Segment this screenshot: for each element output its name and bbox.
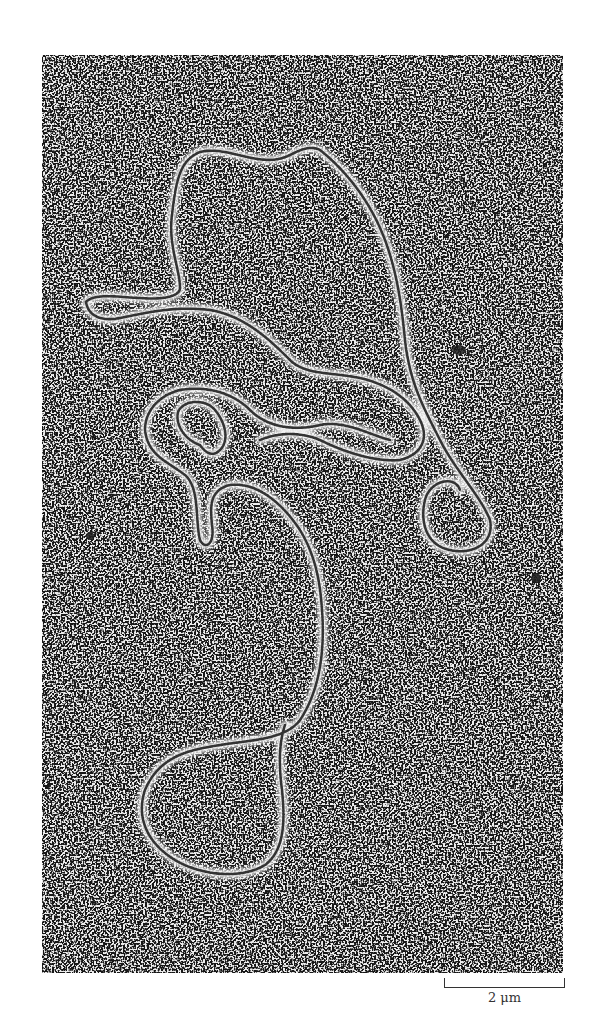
scale-bar-label: 2 μm — [444, 990, 565, 1005]
micrograph-canvas — [42, 55, 563, 973]
electron-micrograph — [42, 55, 563, 973]
scale-bar — [444, 978, 565, 988]
